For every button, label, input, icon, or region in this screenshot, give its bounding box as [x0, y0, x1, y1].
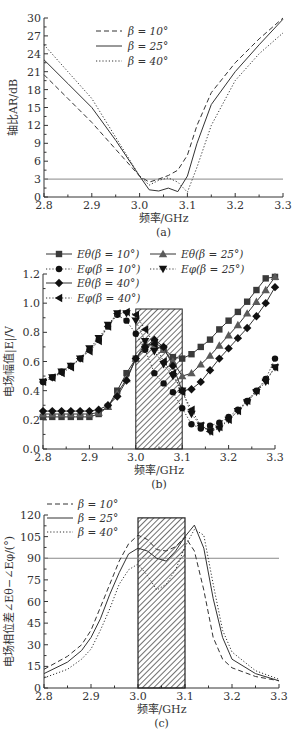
legend-label: Eφ(β = 40°)	[76, 292, 140, 304]
chart-axial-ratio: 2.82.93.03.13.23.3036912151821242730频率/G…	[0, 0, 297, 240]
y-tick-label: 15	[27, 102, 41, 115]
y-tick-label: 30	[27, 639, 41, 652]
y-tick-label: 45	[27, 617, 41, 630]
y-tick-label: 0.0	[23, 443, 41, 456]
y-tick-label: 18	[27, 84, 41, 97]
circle-marker	[151, 370, 157, 376]
diamond-marker	[187, 385, 195, 393]
x-tick-label: 3.1	[173, 451, 191, 464]
x-tick-label: 3.3	[266, 451, 284, 464]
y-tick-label: 21	[27, 66, 41, 79]
x-tick-label: 3.1	[176, 690, 194, 703]
x-tick-label: 3.3	[274, 199, 292, 212]
y-tick-label: 30	[27, 12, 41, 25]
y-tick-label: 60	[27, 596, 41, 609]
y-tick-label: 105	[20, 531, 41, 544]
diamond-marker	[55, 279, 63, 287]
circle-marker	[160, 380, 166, 386]
circle-marker	[188, 421, 194, 427]
legend-label: β = 25°	[127, 40, 168, 52]
x-tick-label: 3.0	[129, 690, 147, 703]
y-tick-label: 15	[27, 660, 41, 673]
legend-label: β = 40°	[127, 55, 168, 67]
legend: Eθ(β = 10°)Eφ(β = 10°)Eθ(β = 40°)Eφ(β = …	[46, 248, 244, 304]
x-axis-title: 频率/GHz	[134, 463, 184, 477]
legend-label: Eθ(β = 40°)	[76, 277, 139, 289]
legend-label: Eθ(β = 10°)	[76, 248, 139, 260]
y-tick-label: 0	[34, 191, 41, 204]
legend: β = 10°β = 25°β = 40°	[47, 498, 118, 538]
legend-label: Eθ(β = 25°)	[180, 248, 243, 260]
y-tick-label: 9	[34, 137, 41, 150]
x-tick-label: 3.0	[127, 451, 145, 464]
legend-label: Eφ(β = 25°)	[180, 263, 244, 275]
y-tick-label: 27	[27, 30, 41, 43]
legend-label: β = 10°	[127, 25, 168, 37]
y-tick-label: 24	[27, 48, 41, 61]
legend-label: Eφ(β = 10°)	[76, 263, 140, 275]
y-tick-label: 0.4	[23, 385, 41, 398]
figure-caption: (a)	[156, 226, 171, 239]
square-marker	[244, 299, 250, 305]
x-tick-label: 2.9	[83, 199, 101, 212]
x-tick-label: 3.3	[270, 690, 288, 703]
circle-marker	[272, 355, 278, 361]
square-marker	[198, 344, 204, 350]
circle-marker	[123, 317, 129, 323]
y-tick-label: 0.2	[23, 414, 41, 427]
legend-label: β = 40°	[77, 526, 118, 538]
y-tick-label: 90	[27, 552, 41, 565]
figure-caption: (c)	[154, 717, 169, 730]
operating-band	[138, 518, 185, 688]
square-marker	[253, 287, 259, 293]
x-tick-label: 3.0	[131, 199, 149, 212]
circle-marker	[170, 389, 176, 395]
y-tick-label: 120	[20, 509, 41, 522]
x-tick-label: 3.1	[179, 199, 197, 212]
y-axis-title: 轴比AR/dB	[6, 79, 20, 136]
triangle-left-marker	[55, 294, 62, 302]
chart-phase-difference: 2.82.93.03.13.23.30153045607590105120频率/…	[0, 490, 297, 736]
figure-caption: (b)	[151, 478, 167, 490]
square-marker	[179, 355, 185, 361]
x-tick-label: 3.2	[226, 199, 244, 212]
square-marker	[56, 251, 62, 257]
y-axis-title: 电场幅值|E|/V	[2, 325, 17, 397]
legend-label: β = 25°	[77, 512, 118, 524]
diamond-marker	[262, 299, 270, 307]
plot-area	[44, 518, 279, 688]
square-marker	[263, 275, 269, 281]
circle-marker	[133, 331, 139, 337]
square-marker	[207, 336, 213, 342]
triangle-up-marker	[262, 286, 270, 293]
legend: β = 10°β = 25°β = 40°	[96, 25, 168, 67]
y-tick-label: 6	[34, 155, 41, 168]
diamond-marker	[271, 283, 279, 291]
chart-field-magnitude: 2.82.93.03.13.23.30.00.20.40.60.81.01.2频…	[0, 240, 297, 490]
square-marker	[216, 326, 222, 332]
legend-label: β = 10°	[77, 498, 118, 510]
square-marker	[188, 351, 194, 357]
circle-marker	[56, 266, 62, 272]
x-tick-label: 3.2	[223, 690, 241, 703]
y-tick-label: 0.6	[23, 356, 41, 369]
y-tick-label: 1.0	[23, 297, 41, 310]
y-tick-label: 12	[27, 119, 41, 132]
circle-marker	[179, 405, 185, 411]
square-marker	[235, 309, 241, 315]
x-axis-title: 频率/GHz	[137, 702, 187, 716]
y-tick-label: 0	[34, 682, 41, 695]
x-tick-label: 2.9	[81, 451, 99, 464]
y-tick-label: 3	[34, 173, 41, 186]
x-axis-title: 频率/GHz	[139, 211, 189, 225]
plot-area	[39, 273, 279, 449]
y-tick-label: 1.2	[23, 268, 41, 281]
x-tick-label: 2.9	[82, 690, 100, 703]
y-tick-label: 0.8	[23, 326, 41, 339]
y-tick-label: 75	[27, 574, 41, 587]
y-axis-title: 电场相位差∠Eθ−∠Eφ/(°)	[2, 536, 16, 667]
square-marker	[225, 317, 231, 323]
x-tick-label: 3.2	[220, 451, 238, 464]
